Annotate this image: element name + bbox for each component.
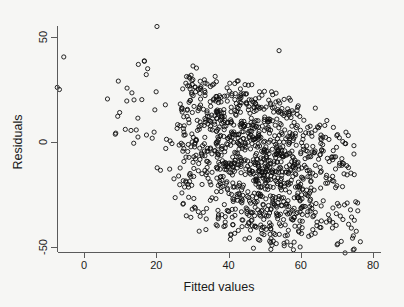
y-tick-label: -50 <box>37 239 49 255</box>
y-tick-label: 50 <box>37 31 49 43</box>
x-tick-label: 20 <box>150 259 162 271</box>
y-tick-label: 0 <box>37 139 49 145</box>
scatter-plot-figure: 500-50 020406080 Fitted values Residuals <box>0 0 404 307</box>
x-tick-label: 0 <box>81 259 87 271</box>
x-tick-label: 40 <box>222 259 234 271</box>
x-tick-label: 80 <box>367 259 379 271</box>
y-axis-label: Residuals <box>11 115 25 170</box>
x-tick-label: 60 <box>295 259 307 271</box>
plot-canvas: 500-50 020406080 Fitted values Residuals <box>0 0 404 307</box>
x-axis-label: Fitted values <box>184 280 255 294</box>
